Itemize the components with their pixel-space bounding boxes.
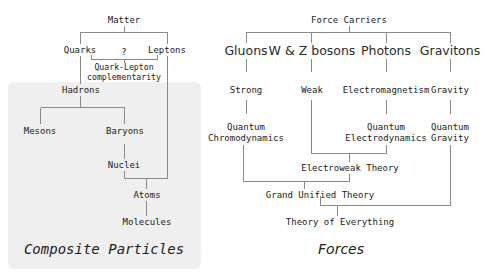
node-force-carriers: Force Carriers <box>310 15 388 25</box>
node-qcd-line1: Quantum <box>226 122 266 132</box>
node-nuclei: Nuclei <box>107 160 142 170</box>
diagram-canvas: Matter Quarks Leptons ? Quark-Lepton com… <box>0 0 486 275</box>
node-qed-line1: Quantum <box>366 122 406 132</box>
complementarity-label-line2: complementarity <box>87 73 161 83</box>
node-unknown-link: ? <box>121 47 126 57</box>
node-quarks: Quarks <box>63 45 98 55</box>
node-grand-unified-theory: Grand Unified Theory <box>266 190 374 200</box>
composite-particles-title: Composite Particles <box>24 241 184 257</box>
node-mesons: Mesons <box>23 126 58 136</box>
node-weak: Weak <box>300 85 324 95</box>
node-photons: Photons <box>360 44 412 58</box>
node-leptons: Leptons <box>147 45 187 55</box>
node-qcd-line2: Chromodynamics <box>207 133 285 143</box>
node-matter: Matter <box>107 15 142 25</box>
node-qg-line1: Quantum <box>430 122 470 132</box>
node-baryons: Baryons <box>105 126 145 136</box>
node-gravity: Gravity <box>430 85 470 95</box>
node-gluons: Gluons <box>223 44 268 58</box>
node-wz-bosons: W & Z bosons <box>268 44 357 58</box>
node-hadrons: Hadrons <box>61 85 101 95</box>
node-electroweak-theory: Electroweak Theory <box>300 163 400 173</box>
node-gravitons: Gravitons <box>419 44 481 58</box>
forces-title: Forces <box>318 241 364 257</box>
node-strong: Strong <box>229 85 264 95</box>
node-molecules: Molecules <box>122 217 173 227</box>
node-theory-of-everything: Theory of Everything <box>285 217 395 227</box>
node-qed-line2: Electrodynamics <box>344 133 427 143</box>
node-atoms: Atoms <box>132 190 161 200</box>
node-qg-line2: Gravity <box>430 133 470 143</box>
node-electromagnetism: Electromagnetism <box>342 85 431 95</box>
